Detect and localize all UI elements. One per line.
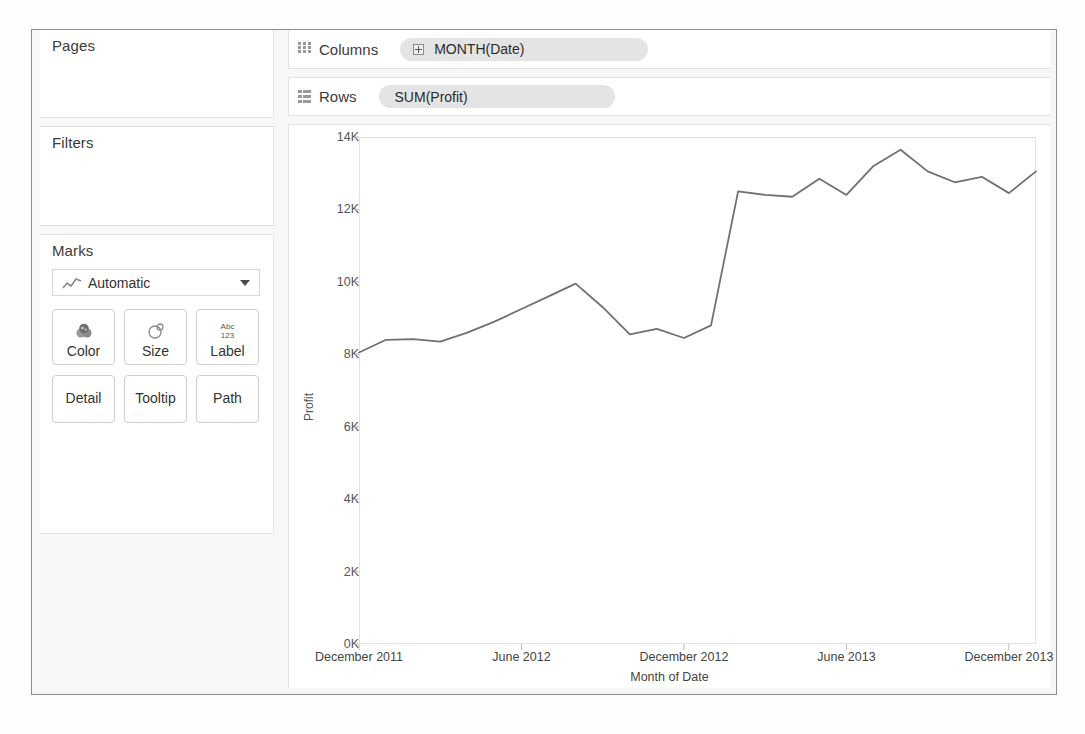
- columns-shelf[interactable]: Columns MONTH(Date): [288, 30, 1050, 69]
- pages-card-title: Pages: [40, 30, 273, 54]
- filters-card-title: Filters: [40, 127, 273, 151]
- color-button-label: Color: [67, 344, 100, 359]
- pill-sum-profit[interactable]: SUM(Profit): [379, 85, 615, 108]
- x-axis-tick: June 2013: [817, 650, 875, 664]
- left-panel: Pages Filters Marks Automatic: [32, 30, 282, 694]
- tooltip-button-label: Tooltip: [135, 391, 175, 406]
- marks-buttons-row-1: Color Size Abc 123: [52, 309, 259, 365]
- x-axis-title: Month of Date: [289, 670, 1050, 684]
- pill-sum-profit-label: SUM(Profit): [395, 89, 468, 105]
- columns-icon: [298, 42, 311, 56]
- data-line: [359, 150, 1036, 353]
- marks-card: Marks Automatic: [40, 234, 274, 534]
- label-button[interactable]: Abc 123 Label: [196, 309, 259, 365]
- path-button[interactable]: Path: [196, 375, 259, 423]
- marks-buttons-row-2: Detail Tooltip Path: [52, 375, 259, 423]
- x-axis-tick: December 2011: [315, 650, 403, 664]
- size-circle-icon: [146, 320, 166, 342]
- y-axis: 0K2K4K6K8K10K12K14K: [307, 125, 359, 688]
- rows-icon: [298, 90, 311, 104]
- line-chart-icon: [62, 276, 82, 289]
- line-chart: Profit 0K2K4K6K8K10K12K14K December 2011…: [289, 125, 1050, 688]
- chevron-down-icon[interactable]: [240, 280, 250, 286]
- size-button-label: Size: [142, 344, 169, 359]
- abc-icon-top: Abc: [221, 322, 235, 331]
- x-axis-tick: December 2012: [639, 650, 728, 664]
- color-palette-icon: [74, 320, 94, 342]
- marks-card-title: Marks: [40, 235, 273, 259]
- pages-card[interactable]: Pages: [40, 30, 274, 118]
- rows-shelf[interactable]: Rows SUM(Profit): [288, 77, 1050, 116]
- abc-123-icon: Abc 123: [221, 320, 235, 342]
- path-button-label: Path: [213, 391, 242, 406]
- rows-shelf-label: Rows: [319, 88, 357, 105]
- view-panel: Columns MONTH(Date) Rows SUM(Profit): [282, 30, 1056, 694]
- y-axis-tick: 12K: [307, 202, 359, 216]
- mark-type-dropdown[interactable]: Automatic: [52, 269, 260, 296]
- tooltip-button[interactable]: Tooltip: [124, 375, 187, 423]
- x-axis-tick: December 2013: [964, 650, 1053, 664]
- y-axis-tick: 8K: [307, 347, 359, 361]
- pill-month-date-label: MONTH(Date): [434, 41, 524, 57]
- y-axis-tick: 6K: [307, 420, 359, 434]
- y-axis-tick: 2K: [307, 565, 359, 579]
- size-button[interactable]: Size: [124, 309, 187, 365]
- label-button-label: Label: [210, 344, 244, 359]
- y-axis-tick: 4K: [307, 492, 359, 506]
- detail-button[interactable]: Detail: [52, 375, 115, 423]
- y-axis-tick: 14K: [307, 130, 359, 144]
- y-axis-tick: 10K: [307, 275, 359, 289]
- abc-icon-bottom: 123: [221, 331, 234, 340]
- plot-area: [359, 137, 1036, 644]
- detail-button-label: Detail: [66, 391, 102, 406]
- chart-canvas[interactable]: Profit 0K2K4K6K8K10K12K14K December 2011…: [288, 124, 1050, 688]
- filters-card[interactable]: Filters: [40, 126, 274, 226]
- columns-shelf-label: Columns: [319, 41, 378, 58]
- tableau-worksheet-window: Pages Filters Marks Automatic: [31, 29, 1057, 695]
- pill-month-date[interactable]: MONTH(Date): [400, 38, 648, 61]
- x-axis-tick: June 2012: [492, 650, 550, 664]
- mark-type-value: Automatic: [88, 275, 150, 291]
- color-button[interactable]: Color: [52, 309, 115, 365]
- plus-box-icon[interactable]: [413, 44, 424, 55]
